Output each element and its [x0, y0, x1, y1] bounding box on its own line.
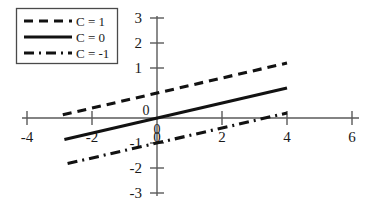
y-tick-label-3: 3 — [135, 10, 143, 26]
legend-label-cneg1: C = -1 — [76, 46, 109, 61]
x-tick-label-2: 2 — [218, 129, 226, 145]
series-line-c1 — [63, 63, 287, 115]
chart-figure: -4 -2 0 2 4 6 3 2 1 -1 -2 -3 0 0 C = 1 — [0, 0, 369, 216]
x-tick-label-4: 4 — [283, 129, 291, 145]
y-tick-label-2: 2 — [135, 35, 143, 51]
series-line-cneg1 — [68, 113, 287, 164]
chart-plot-area: -4 -2 0 2 4 6 3 2 1 -1 -2 -3 0 0 C = 1 — [0, 0, 369, 216]
origin-label-lower: 0 — [154, 122, 161, 137]
series-line-c0 — [64, 88, 287, 139]
x-tick-label-neg4: -4 — [21, 129, 34, 145]
chart-legend: C = 1 C = 0 C = -1 — [17, 9, 118, 64]
legend-label-c1: C = 1 — [76, 14, 105, 29]
legend-label-c0: C = 0 — [76, 30, 105, 45]
origin-label-upper: 0 — [143, 103, 150, 118]
y-tick-label-neg2: -2 — [130, 160, 143, 176]
y-tick-label-neg3: -3 — [130, 185, 143, 201]
x-tick-label-6: 6 — [348, 129, 356, 145]
y-tick-label-1: 1 — [135, 60, 143, 76]
